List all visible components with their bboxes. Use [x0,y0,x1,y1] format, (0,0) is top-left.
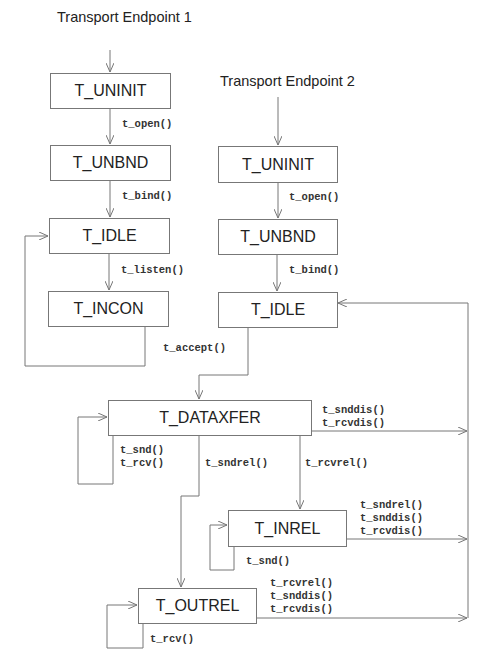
dataxfer-rcvrel-label: t_rcvrel() [305,457,368,470]
state-outrel: T_OUTREL [138,588,257,624]
state-label: T_INREL [255,520,321,538]
ep1-transition-listen: t_listen() [121,264,184,277]
ep1-state-uninit: T_UNINIT [50,73,171,109]
state-label: T_OUTREL [156,597,240,615]
state-label: T_UNINIT [242,156,314,174]
inrel-rcvdis-label: t_rcvdis() [360,525,423,538]
outrel-rcv-label: t_rcv() [150,633,194,646]
ep2-state-unbnd: T_UNBND [218,219,338,255]
ep1-transition-bind: t_bind() [122,190,172,203]
ep1-state-incon: T_INCON [48,291,169,327]
state-label: T_UNINIT [75,82,147,100]
inrel-snd-label: t_snd() [246,555,290,568]
state-label: T_DATAXFER [159,409,261,427]
state-dataxfer: T_DATAXFER [108,400,312,436]
inrel-snddis-label: t_snddis() [360,512,423,525]
ep1-transition-open: t_open() [122,118,172,131]
dataxfer-rcvdis-label: t_rcvdis() [322,417,385,430]
ep2-transition-open: t_open() [289,191,339,204]
endpoint1-title: Transport Endpoint 1 [57,9,192,25]
inrel-sndrel-label: t_sndrel() [360,499,423,512]
state-transition-diagram: Transport Endpoint 1 T_UNINIT t_open() T… [0,0,489,666]
ep2-state-uninit: T_UNINIT [218,146,338,183]
outrel-rcvdis-label: t_rcvdis() [270,603,333,616]
ep2-state-idle: T_IDLE [218,292,338,328]
state-label: T_IDLE [251,301,305,319]
state-inrel: T_INREL [228,510,347,547]
state-label: T_IDLE [82,227,136,245]
transition-accept: t_accept() [163,342,226,355]
ep1-state-idle: T_IDLE [49,218,170,254]
dataxfer-sndrel-label: t_sndrel() [205,457,268,470]
outrel-snddis-label: t_snddis() [270,590,333,603]
ep1-state-unbnd: T_UNBND [50,145,171,181]
state-label: T_INCON [73,300,143,318]
dataxfer-snd-label: t_snd() [120,444,164,457]
endpoint2-title: Transport Endpoint 2 [220,73,355,89]
outrel-rcvrel-label: t_rcvrel() [270,577,333,590]
dataxfer-rcv-label: t_rcv() [120,457,164,470]
ep2-transition-bind: t_bind() [289,264,339,277]
state-label: T_UNBND [73,154,149,172]
dataxfer-snddis-label: t_snddis() [322,404,385,417]
state-label: T_UNBND [240,228,316,246]
